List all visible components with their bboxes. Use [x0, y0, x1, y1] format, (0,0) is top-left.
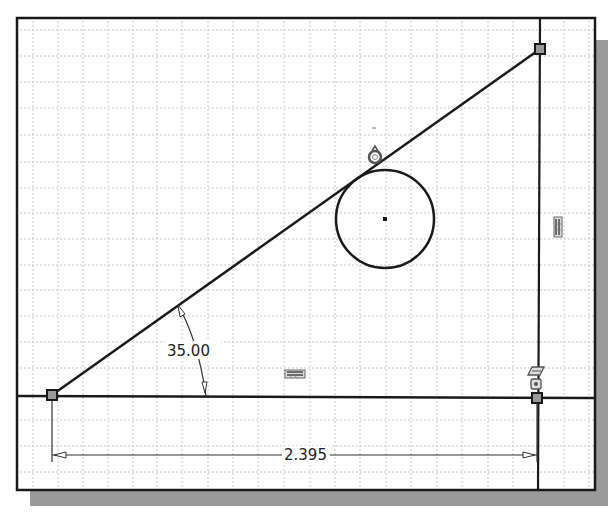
- vertical-line[interactable]: [538, 19, 540, 489]
- perpendicular-icon[interactable]: [528, 367, 544, 375]
- inclined-line[interactable]: [52, 49, 540, 395]
- horizontal-icon[interactable]: [285, 370, 305, 378]
- linear-dimension-value[interactable]: 2.395: [284, 446, 327, 464]
- top-right-endpoint[interactable]: [535, 44, 545, 54]
- angle-dimension-value[interactable]: 35.00: [167, 342, 210, 360]
- left-endpoint[interactable]: [47, 390, 57, 400]
- coincident-icon[interactable]: [531, 379, 541, 389]
- tangent-icon[interactable]: [369, 146, 381, 163]
- sketch-canvas[interactable]: 35.00 2.395: [0, 0, 608, 516]
- sketch-grid: [16, 17, 596, 490]
- sketch-window-border: [17, 18, 595, 490]
- horizontal-line[interactable]: [18, 396, 595, 398]
- vertical-icon[interactable]: [554, 217, 562, 237]
- circle-center-point[interactable]: [383, 217, 387, 221]
- sketch-geometry[interactable]: [18, 19, 595, 489]
- bottom-right-endpoint[interactable]: [532, 393, 542, 403]
